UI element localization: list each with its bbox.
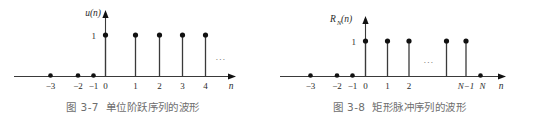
figure-3-8: 1 R N (n) n ... −3 −2 −1 0 1 2 N−1 N 图 (266, 0, 533, 130)
x-tick-label-2: 2 (407, 81, 412, 91)
caption-text: 单位阶跃序列的波形 (106, 101, 200, 113)
sample-dot-neg3 (308, 73, 313, 78)
unit-step-sequence-plot: 1 u(n) n ... −3 −2 −1 0 1 2 3 4 (0, 0, 266, 100)
caption-number: 图 3-7 (66, 101, 99, 113)
x-tick-label-N-minus-1: N−1 (457, 81, 475, 91)
y-axis-label-group: R N (n) (329, 14, 352, 26)
x-tick-label-N: N (478, 81, 486, 91)
ellipsis: ... (424, 55, 434, 65)
x-tick-label-4: 4 (203, 81, 208, 91)
y-value-label: 1 (92, 31, 97, 41)
y-axis-label-tail: (n) (341, 14, 352, 25)
x-tick-label-1: 1 (133, 81, 138, 91)
stem-head-n-N-2 (444, 38, 449, 43)
y-axis-label: u(n) (85, 8, 101, 19)
x-tick-label-0: 0 (103, 81, 108, 91)
sample-dot-N (478, 73, 483, 78)
figure-sheet: 1 u(n) n ... −3 −2 −1 0 1 2 3 4 图 3-7单位阶… (0, 0, 533, 130)
x-tick-label-1: 1 (385, 81, 390, 91)
sample-dot-neg2 (76, 73, 81, 78)
x-tick-label-2: 2 (157, 81, 162, 91)
stem-head-n2 (406, 38, 411, 43)
x-tick-label-neg1: −1 (348, 81, 358, 91)
x-tick-label-neg2: −2 (73, 81, 83, 91)
sample-dot-neg2 (335, 73, 340, 78)
x-tick-label-neg3: −3 (306, 81, 316, 91)
figure-caption: 图 3-8矩形脉冲序列的波形 (266, 99, 533, 114)
x-tick-label-neg3: −3 (46, 81, 56, 91)
x-tick-label-3: 3 (180, 81, 185, 91)
y-axis-arrowhead (362, 16, 368, 24)
x-axis-label: n (229, 81, 234, 91)
x-axis-arrowhead (498, 73, 506, 79)
stem-head-n-N-1 (463, 38, 468, 43)
figure-caption: 图 3-7单位阶跃序列的波形 (0, 99, 266, 114)
x-axis-label: n (499, 81, 504, 91)
sample-dot-neg1 (91, 73, 96, 78)
x-axis-arrowhead (228, 73, 236, 79)
caption-number: 图 3-8 (333, 101, 366, 113)
stem-head-n3 (180, 32, 185, 37)
y-value-label: 1 (352, 37, 357, 47)
y-axis-arrowhead (102, 10, 108, 18)
stem-head-n0 (103, 32, 108, 37)
x-tick-label-0: 0 (363, 81, 368, 91)
stem-head-n2 (157, 32, 162, 37)
x-tick-label-neg1: −1 (89, 81, 99, 91)
sample-dot-neg1 (350, 73, 355, 78)
sample-dot-neg3 (48, 73, 53, 78)
x-tick-label-neg2: −2 (332, 81, 342, 91)
stem-head-n1 (385, 38, 390, 43)
stem-head-n1 (133, 32, 138, 37)
stem-head-n0 (363, 38, 368, 43)
figure-3-7: 1 u(n) n ... −3 −2 −1 0 1 2 3 4 图 3-7单位阶… (0, 0, 266, 130)
caption-text: 矩形脉冲序列的波形 (372, 101, 466, 113)
ellipsis: ... (216, 52, 226, 62)
rectangular-pulse-sequence-plot: 1 R N (n) n ... −3 −2 −1 0 1 2 N−1 N (266, 0, 533, 100)
y-axis-label: R (329, 14, 336, 24)
stem-head-n4 (203, 32, 208, 37)
